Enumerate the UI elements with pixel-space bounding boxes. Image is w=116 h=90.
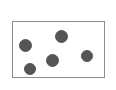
scatter-point xyxy=(55,30,68,43)
scatter-point xyxy=(81,50,93,62)
figure-canvas xyxy=(0,0,116,90)
scatter-point xyxy=(19,39,32,52)
scatter-point xyxy=(46,54,59,67)
scatter-point xyxy=(24,63,36,75)
